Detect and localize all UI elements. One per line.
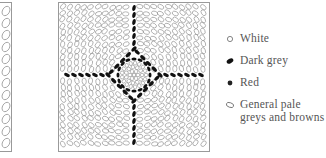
- legend-item-pale: General pale greys and browns: [225, 98, 325, 120]
- mosaic-pattern: [59, 3, 209, 151]
- adjacent-panel-edge: [0, 2, 12, 152]
- open-circle-icon: [225, 34, 237, 44]
- filled-dot-icon: [225, 78, 237, 88]
- legend-label: White: [240, 32, 269, 45]
- filled-ellipse-icon: [225, 56, 237, 66]
- legend-label: General pale greys and browns: [240, 98, 324, 124]
- legend-item-white: White: [225, 32, 325, 54]
- pale-tesserae-strip: [0, 3, 12, 153]
- legend-item-red: Red: [225, 76, 325, 98]
- legend-label: Dark grey: [240, 54, 288, 67]
- mosaic-panel: [58, 2, 210, 152]
- legend-item-dark-grey: Dark grey: [225, 54, 325, 76]
- open-ellipse-icon: [225, 100, 237, 110]
- legend-label: Red: [240, 76, 259, 89]
- legend: White Dark grey Red General pale greys a…: [225, 32, 325, 120]
